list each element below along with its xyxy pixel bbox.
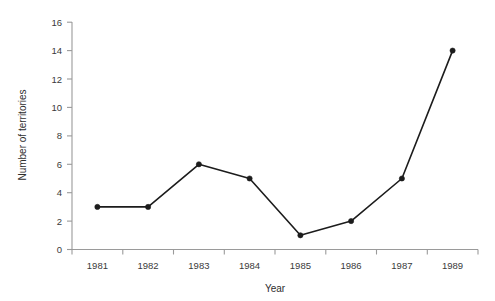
data-point-marker: [146, 204, 151, 209]
y-tick-label: 10: [51, 102, 62, 113]
x-tick-label: 1985: [290, 260, 311, 271]
line-chart: 0 2 4 6 8 10 12 14 16 1981 1982 1983: [0, 0, 495, 301]
y-tick-label: 16: [51, 17, 62, 28]
x-tick-label: 1987: [391, 260, 412, 271]
data-point-marker: [298, 233, 303, 238]
chart-plot-area: 0 2 4 6 8 10 12 14 16 1981 1982 1983: [0, 0, 495, 301]
y-axis-ticks: [67, 22, 72, 249]
y-tick-label: 6: [57, 159, 62, 170]
x-axis-tick-labels: 1981 1982 1983 1984 1985 1986 1987 1989: [87, 260, 463, 271]
x-tick-label: 1986: [341, 260, 362, 271]
y-tick-label: 0: [57, 244, 62, 255]
y-axis-title: Number of territories: [17, 89, 28, 180]
data-point-marker: [247, 176, 252, 181]
x-tick-label: 1981: [87, 260, 108, 271]
x-tick-label: 1982: [138, 260, 159, 271]
data-point-markers: [95, 48, 455, 238]
x-axis-title: Year: [265, 283, 286, 294]
data-point-marker: [450, 48, 455, 53]
y-tick-label: 8: [57, 130, 62, 141]
data-point-marker: [196, 162, 201, 167]
y-axis-tick-labels: 0 2 4 6 8 10 12 14 16: [51, 17, 62, 255]
y-tick-label: 2: [57, 216, 62, 227]
y-tick-label: 12: [51, 74, 62, 85]
x-axis-ticks: [72, 250, 478, 255]
data-point-marker: [349, 219, 354, 224]
y-tick-label: 4: [57, 187, 62, 198]
data-point-marker: [95, 204, 100, 209]
y-tick-label: 14: [51, 45, 62, 56]
x-tick-label: 1989: [442, 260, 463, 271]
x-tick-label: 1983: [188, 260, 209, 271]
data-point-marker: [399, 176, 404, 181]
x-tick-label: 1984: [239, 260, 260, 271]
